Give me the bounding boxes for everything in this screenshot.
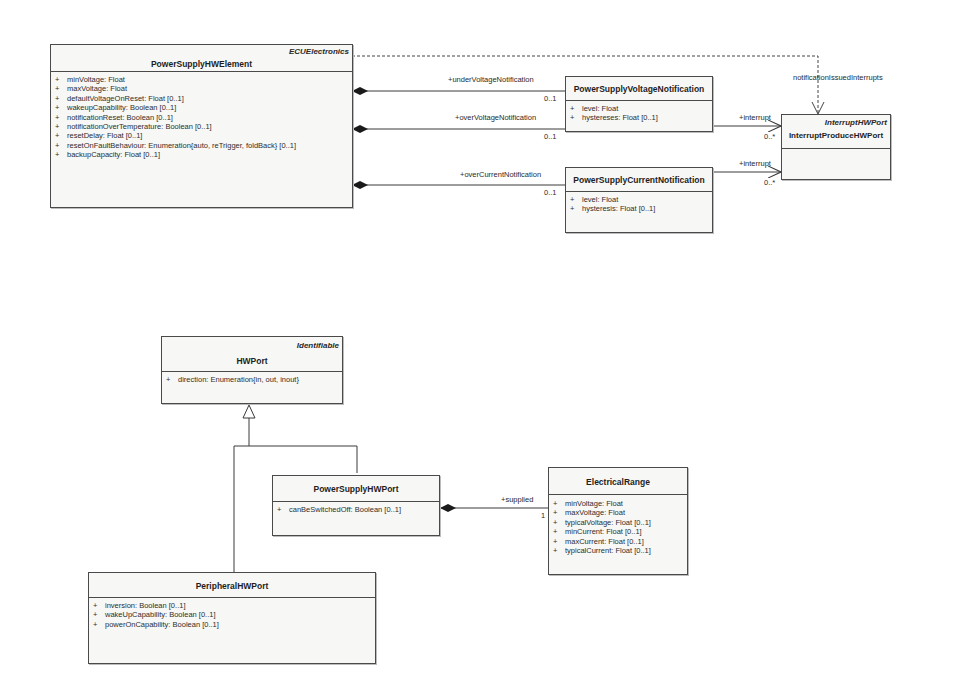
class-peripheral-hw-port[interactable]: PeripheralHWPort +inversion: Boolean [0.…	[88, 572, 376, 664]
class-header: PowerSupplyCurrentNotification	[566, 168, 712, 192]
attribute-compartment: +canBeSwitchedOff: Boolean [0..1]	[273, 502, 439, 514]
role-label-voltage-interrupt: +interrupt	[739, 113, 771, 122]
attribute-row: +level: Float	[570, 104, 708, 113]
class-electrical-range[interactable]: ElectricalRange +minVoltage: Float +maxV…	[548, 467, 688, 575]
stereotype-label: InterruptHWPort	[825, 118, 887, 127]
class-name: PowerSupplyHWPort	[273, 484, 439, 494]
attribute-row: +canBeSwitchedOff: Boolean [0..1]	[277, 505, 435, 514]
class-power-supply-current-notification[interactable]: PowerSupplyCurrentNotification +level: F…	[565, 167, 713, 233]
composition-diamond-icon	[352, 181, 368, 189]
attribute-row: +backupCapacity: Float [0..1]	[55, 150, 348, 159]
attribute-row: +powerOnCapability: Boolean [0..1]	[93, 620, 371, 629]
attribute-row: +resetOnFaultBehaviour: Enumeration{auto…	[55, 141, 348, 150]
attribute-row: +typicalVoltage: Float [0..1]	[553, 518, 683, 527]
attribute-row: +minCurrent: Float [0..1]	[553, 527, 683, 536]
attribute-compartment: +inversion: Boolean [0..1] +wakeUpCapabi…	[89, 598, 375, 629]
class-name: ElectricalRange	[549, 477, 687, 487]
class-header: PowerSupplyHWPort	[273, 476, 439, 502]
stereotype-label: ECUElectronics	[289, 47, 349, 56]
attribute-row: +hystereses: Float [0..1]	[570, 113, 708, 122]
class-name: HWPort	[162, 356, 342, 366]
role-label-current-interrupt: +interrupt	[739, 159, 771, 168]
attribute-row: +wakeUpCapability: Boolean [0..1]	[93, 610, 371, 619]
attribute-row: +defaultVoltageOnReset: Float [0..1]	[55, 94, 348, 103]
class-power-supply-voltage-notification[interactable]: PowerSupplyVoltageNotification +level: F…	[565, 76, 713, 132]
composition-diamond-icon	[352, 125, 368, 133]
attribute-row: +maxCurrent: Float [0..1]	[553, 537, 683, 546]
class-name: PowerSupplyCurrentNotification	[566, 175, 712, 185]
role-label-over-voltage: +overVoltageNotification	[455, 113, 536, 122]
multiplicity-current-interrupt: 0..*	[764, 178, 775, 187]
class-name: PowerSupplyHWElement	[51, 59, 352, 69]
attribute-row: +typicalCurrent: Float [0..1]	[553, 546, 683, 555]
stereotype-label: Identifiable	[297, 341, 339, 350]
attribute-row: +level: Float	[570, 195, 708, 204]
attribute-row: +resetDelay: Float [0..1]	[55, 131, 348, 140]
class-power-supply-hw-port[interactable]: PowerSupplyHWPort +canBeSwitchedOff: Boo…	[272, 475, 440, 536]
class-header: PeripheralHWPort	[89, 573, 375, 598]
role-label-supplied: +supplied	[501, 495, 533, 504]
role-label-under-voltage: +underVoltageNotification	[448, 75, 534, 84]
composition-over-voltage	[352, 125, 566, 133]
role-label-over-current: +overCurrentNotification	[460, 170, 541, 179]
multiplicity-under-voltage: 0..1	[544, 94, 557, 103]
attribute-row: +minVoltage: Float	[55, 75, 348, 84]
class-interrupt-produce-hw-port[interactable]: InterruptHWPort InterruptProduceHWPort	[781, 114, 891, 180]
role-label-notification-issued-interrupts: notificationIssuedInterrupts	[793, 73, 883, 82]
attribute-row: +notificationReset: Boolean [0..1]	[55, 113, 348, 122]
composition-diamond-icon	[440, 504, 456, 512]
class-power-supply-hw-element[interactable]: ECUElectronics PowerSupplyHWElement +min…	[50, 44, 353, 208]
attribute-compartment: +minVoltage: Float +maxVoltage: Float +t…	[549, 495, 687, 555]
attribute-row: +maxVoltage: Float	[55, 84, 348, 93]
class-header: ElectricalRange	[549, 468, 687, 495]
attribute-row: +minVoltage: Float	[553, 499, 683, 508]
generalization-triangle-icon	[243, 405, 255, 418]
class-header: ECUElectronics PowerSupplyHWElement	[51, 45, 352, 72]
class-name: PowerSupplyVoltageNotification	[566, 84, 712, 94]
attribute-compartment: +minVoltage: Float +maxVoltage: Float +d…	[51, 72, 352, 160]
composition-under-voltage	[352, 87, 566, 95]
multiplicity-voltage-interrupt: 0..*	[764, 132, 775, 141]
class-name: InterruptProduceHWPort	[782, 131, 890, 140]
attribute-row: +hysteresis: Float [0..1]	[570, 204, 708, 213]
class-header: InterruptHWPort InterruptProduceHWPort	[782, 115, 890, 149]
class-header: PowerSupplyVoltageNotification	[566, 77, 712, 101]
attribute-compartment: +level: Float +hystereses: Float [0..1]	[566, 101, 712, 123]
attribute-row: +inversion: Boolean [0..1]	[93, 601, 371, 610]
attribute-row: +maxVoltage: Float	[553, 508, 683, 517]
attribute-row: +notificationOverTemperature: Boolean [0…	[55, 122, 348, 131]
composition-supplied	[440, 504, 550, 512]
attribute-row: +wakeupCapability: Boolean [0..1]	[55, 103, 348, 112]
composition-over-current	[352, 181, 566, 189]
composition-diamond-icon	[352, 87, 368, 95]
multiplicity-over-current: 0..1	[544, 188, 557, 197]
class-hw-port[interactable]: Identifiable HWPort +direction: Enumerat…	[161, 336, 343, 404]
attribute-compartment: +level: Float +hysteresis: Float [0..1]	[566, 192, 712, 214]
multiplicity-over-voltage: 0..1	[544, 132, 557, 141]
class-name: PeripheralHWPort	[89, 581, 375, 591]
attribute-row: +direction: Enumeration{in, out, inout}	[166, 375, 338, 384]
attribute-compartment: +direction: Enumeration{in, out, inout}	[162, 372, 342, 384]
multiplicity-supplied: 1	[541, 511, 545, 520]
class-header: Identifiable HWPort	[162, 337, 342, 372]
